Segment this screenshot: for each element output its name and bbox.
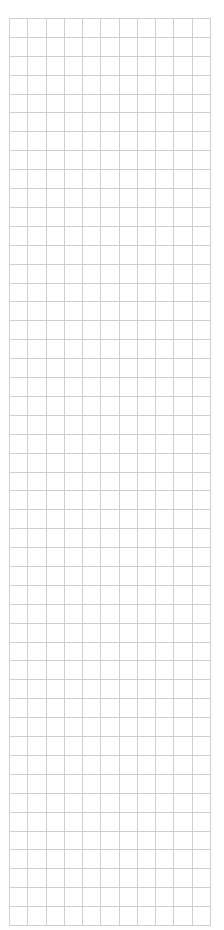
grid-cell [193, 832, 211, 851]
grid-cell [10, 718, 28, 737]
grid-cell [28, 378, 46, 397]
grid-cell [101, 605, 119, 624]
grid-cell [120, 775, 138, 794]
grid-cell [10, 435, 28, 454]
grid-cell [28, 95, 46, 114]
grid-cell [65, 813, 83, 832]
grid-cell [174, 813, 192, 832]
grid-cell [10, 643, 28, 662]
grid-cell [156, 907, 174, 926]
grid-cell [120, 435, 138, 454]
grid-cell [174, 113, 192, 132]
grid-cell [120, 76, 138, 95]
grid-cell [83, 850, 101, 869]
grid-cell [65, 491, 83, 510]
grid-cell [138, 76, 156, 95]
grid-cell [47, 794, 65, 813]
grid-cell [120, 567, 138, 586]
grid-cell [101, 397, 119, 416]
grid-cell [10, 473, 28, 492]
grid-cell [156, 416, 174, 435]
grid-cell [156, 378, 174, 397]
grid-cell [174, 378, 192, 397]
grid-cell [65, 605, 83, 624]
grid-cell [47, 680, 65, 699]
grid-cell [83, 473, 101, 492]
grid-cell [138, 491, 156, 510]
grid-cell [65, 227, 83, 246]
grid-cell [174, 95, 192, 114]
grid-cell [156, 605, 174, 624]
grid-cell [83, 888, 101, 907]
grid-cell [83, 529, 101, 548]
grid-cell [174, 586, 192, 605]
grid-cell [10, 907, 28, 926]
grid-cell [101, 227, 119, 246]
grid-cell [138, 359, 156, 378]
grid-cell [156, 832, 174, 851]
grid-cell [193, 170, 211, 189]
grid-cell [83, 510, 101, 529]
grid-cell [174, 38, 192, 57]
grid-cell [65, 794, 83, 813]
grid-cell [120, 510, 138, 529]
grid-cell [120, 643, 138, 662]
grid-cell [174, 208, 192, 227]
grid-cell [10, 529, 28, 548]
grid-cell [120, 869, 138, 888]
grid-cell [101, 416, 119, 435]
grid-cell [10, 775, 28, 794]
grid-cell [156, 718, 174, 737]
grid-cell [83, 624, 101, 643]
grid-cell [28, 548, 46, 567]
grid-cell [47, 661, 65, 680]
grid-cell [193, 907, 211, 926]
grid-cell [65, 529, 83, 548]
grid-cell [138, 661, 156, 680]
grid-cell [83, 265, 101, 284]
grid-cell [28, 435, 46, 454]
grid-cell [101, 794, 119, 813]
grid-cell [138, 151, 156, 170]
grid-cell [47, 491, 65, 510]
grid-cell [193, 454, 211, 473]
grid-cell [47, 756, 65, 775]
grid-cell [83, 246, 101, 265]
grid-cell [193, 265, 211, 284]
grid-cell [47, 227, 65, 246]
grid-cell [47, 76, 65, 95]
grid-cell [138, 643, 156, 662]
grid-cell [156, 510, 174, 529]
grid-cell [120, 170, 138, 189]
grid-cell [28, 246, 46, 265]
grid-cell [101, 340, 119, 359]
grid-cell [174, 227, 192, 246]
grid-cell [193, 208, 211, 227]
grid-cell [138, 850, 156, 869]
grid-cell [193, 548, 211, 567]
grid-cell [156, 132, 174, 151]
grid-cell [10, 151, 28, 170]
grid-cell [10, 38, 28, 57]
grid-cell [156, 888, 174, 907]
grid-cell [65, 624, 83, 643]
grid-cell [174, 454, 192, 473]
grid-cell [174, 189, 192, 208]
grid-cell [83, 794, 101, 813]
grid-cell [10, 624, 28, 643]
grid-cell [193, 661, 211, 680]
grid-cell [120, 661, 138, 680]
grid-cell [156, 302, 174, 321]
grid-cell [101, 321, 119, 340]
grid-cell [65, 869, 83, 888]
grid-cell [120, 189, 138, 208]
grid-cell [138, 718, 156, 737]
grid-cell [193, 624, 211, 643]
grid-cell [10, 850, 28, 869]
grid-cell [174, 416, 192, 435]
grid-cell [120, 605, 138, 624]
grid-cell [10, 794, 28, 813]
grid-cell [193, 435, 211, 454]
grid-cell [65, 76, 83, 95]
grid-cell [193, 680, 211, 699]
